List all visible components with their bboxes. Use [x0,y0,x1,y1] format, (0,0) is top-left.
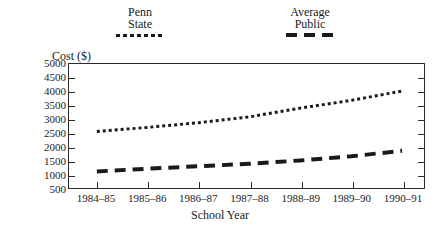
y-axis-tick-right [418,176,424,177]
y-axis-tick [69,134,75,135]
y-axis-tick [69,92,75,93]
legend-swatch-dashed-icon [286,33,334,37]
x-axis-tick [251,182,252,188]
y-axis-tick [69,162,75,163]
x-axis-tick-label: 1988–89 [281,192,320,204]
y-axis-tick-label: 5000 [44,58,66,69]
y-axis-tick-label: 4500 [44,72,66,83]
x-axis-title: School Year [0,208,440,223]
y-axis-tick-right [418,148,424,149]
y-axis-tick-right [418,106,424,107]
plot-area: 500100015002000250030003500400045005000 [34,63,426,189]
y-axis-tick [69,78,75,79]
y-axis-tick-right [418,120,424,121]
series-lines [69,64,424,188]
y-axis-tick [69,106,75,107]
y-axis-tick-label: 2500 [44,128,66,139]
series-line-penn-state [97,91,402,132]
y-axis-tick-label: 1500 [44,156,66,167]
x-axis-tick-label: 1990–91 [384,192,423,204]
x-axis-tick-label: 1986–87 [179,192,218,204]
y-axis-tick-label: 3000 [44,114,66,125]
x-axis-tick [199,182,200,188]
x-axis-tick-labels: 1984–851985–861986–871987–881988–891989–… [34,192,426,208]
x-axis-tick-label: 1985–86 [128,192,167,204]
chart-legend: Penn State Average Public [0,6,440,52]
y-axis-tick-label: 2000 [44,142,66,153]
y-axis-tick [69,148,75,149]
y-axis-tick-label: 4000 [44,86,66,97]
y-axis-tick-labels: 500100015002000250030003500400045005000 [34,63,68,189]
x-axis-tick-label: 1987–88 [230,192,269,204]
x-axis-tick [302,182,303,188]
y-axis-tick-label: 3500 [44,100,66,111]
y-axis-tick [69,176,75,177]
y-axis-tick-right [418,162,424,163]
y-axis-tick-label: 1000 [44,170,66,181]
series-line-average-public [97,151,402,172]
y-axis-tick-right [418,92,424,93]
legend-label-penn-state-line2: State [96,18,184,30]
legend-label-average-public-line2: Public [262,18,358,30]
x-axis-tick-label: 1989–90 [333,192,372,204]
y-axis-tick-right [418,134,424,135]
legend-item-penn-state: Penn State [96,6,184,37]
y-axis-tick [69,120,75,121]
x-axis-tick [148,182,149,188]
x-axis-tick [404,182,405,188]
x-axis-tick [353,182,354,188]
plot-frame [68,63,425,189]
chart-figure: Penn State Average Public Cost ($) 50010… [0,0,440,236]
legend-swatch-dotted-icon [116,33,164,37]
x-axis-tick-label: 1984–85 [77,192,116,204]
y-axis-tick-right [418,78,424,79]
x-axis-tick [97,182,98,188]
legend-item-average-public: Average Public [262,6,358,37]
